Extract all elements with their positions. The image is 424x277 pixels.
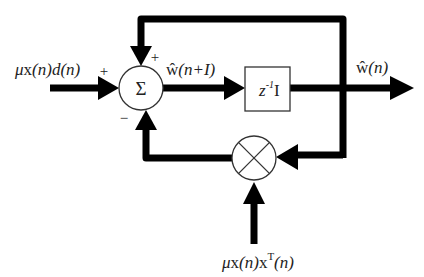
sigma-symbol: Σ [135, 78, 146, 99]
sign-bottom-minus: − [120, 110, 128, 126]
arrowhead-output [390, 76, 414, 100]
arrowhead-input [98, 76, 119, 100]
lms-block-diagram: Σ z-1I + + − μx(n)d(n) ŵ(n+I) ŵ(n) μx(n)… [0, 0, 424, 277]
input-label-mu-x-d: μx(n)d(n) [14, 60, 81, 79]
bottom-input-label-mu-x-xT: μx(n)xT(n) [221, 250, 294, 272]
arrowhead-multiplier-bottom [243, 182, 265, 204]
arrowhead-top-feedback [130, 46, 152, 66]
arrowhead-summer-bottom [135, 110, 157, 130]
summer-output-label: ŵ(n+I) [166, 60, 216, 79]
multiplier-to-summer-line [146, 128, 232, 158]
output-label-w-hat: ŵ(n) [356, 58, 388, 77]
arrowhead-to-multiplier [276, 144, 298, 170]
sign-top-plus: + [151, 49, 159, 65]
sign-left-plus: + [100, 63, 108, 79]
arrowhead-to-delay [224, 76, 245, 100]
